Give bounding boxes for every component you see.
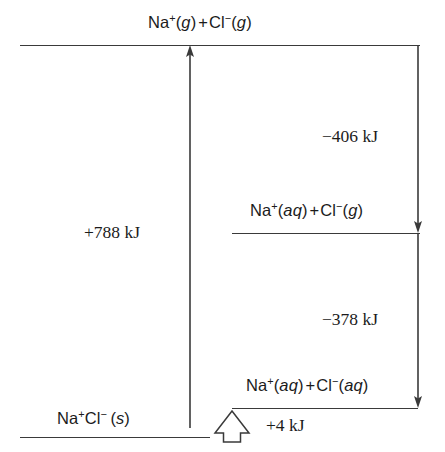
chloride-hydration-enthalpy-value: −378 kJ [322,311,378,329]
energy-level-label-solid-sodium-chloride: Na+Cl− (s) [57,410,130,427]
sodium-hydration-enthalpy-value: −406 kJ [322,128,378,146]
energy-level-line-solid-sodium-chloride [20,437,210,438]
energy-level-line-aqueous-ions [232,408,418,409]
enthalpy-of-solution-value: +4 kJ [266,417,305,435]
down-arrow-icon-sodium-hydration [409,44,427,234]
energy-level-line-gaseous-ions [20,45,420,46]
lattice-enthalpy-value: +788 kJ [84,224,140,242]
energy-level-label-sodium-aqueous-chloride-gas: Na+(aq)+Cl−(g) [250,202,363,219]
down-arrow-icon-chloride-hydration [409,231,427,409]
hollow-up-arrow-icon-enthalpy-of-solution [212,409,252,445]
energy-level-label-gaseous-ions: Na+(g)+Cl−(g) [148,14,252,31]
energy-level-diagram: Na+(g)+Cl−(g) Na+(aq)+Cl−(g) Na+(aq)+Cl−… [0,0,445,452]
up-arrow-icon-lattice-enthalpy [181,44,199,428]
energy-level-line-sodium-aqueous-chloride-gas [232,233,420,234]
energy-level-label-aqueous-ions: Na+(aq)+Cl−(aq) [246,377,368,394]
